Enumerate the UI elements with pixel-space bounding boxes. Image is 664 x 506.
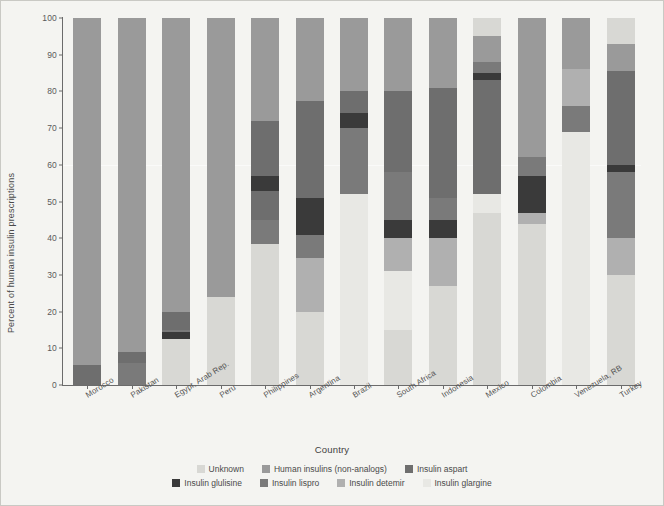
bar-segment (473, 80, 501, 194)
legend-item[interactable]: Insulin detemir (337, 478, 404, 488)
bar-segment (340, 128, 368, 194)
bar-segment (251, 244, 279, 385)
bar-segment (607, 18, 635, 44)
bar-segment (518, 176, 546, 213)
bar-segment (384, 271, 412, 330)
legend-swatch-icon (405, 465, 413, 473)
bar-segment (251, 18, 279, 121)
bar-segment (473, 213, 501, 385)
bar-segment (473, 73, 501, 80)
bar-segment (384, 238, 412, 271)
bar-segment (340, 194, 368, 385)
y-tick-mark (59, 311, 63, 312)
bar-segment (162, 332, 190, 339)
bar-turkey[interactable] (607, 18, 635, 385)
bar-segment (251, 191, 279, 220)
y-tick-mark (59, 348, 63, 349)
bar-philippines[interactable] (251, 18, 279, 385)
legend-label: Insulin glargine (435, 478, 492, 488)
bar-south-africa[interactable] (384, 18, 412, 385)
legend-item[interactable]: Insulin glargine (423, 478, 492, 488)
bar-segment (518, 224, 546, 385)
bar-argentina[interactable] (296, 18, 324, 385)
bar-segment (162, 339, 190, 385)
bar-segment (429, 198, 457, 220)
y-tick-mark (59, 91, 63, 92)
legend-swatch-icon (260, 479, 268, 487)
chart-frame: Percent of human insulin prescriptions 0… (0, 0, 664, 506)
bar-segment (384, 172, 412, 220)
bar-segment (384, 91, 412, 172)
y-tick-mark (59, 201, 63, 202)
legend-swatch-icon (172, 479, 180, 487)
legend-swatch-icon (337, 479, 345, 487)
bar-segment (429, 18, 457, 88)
legend-item[interactable]: Insulin lispro (260, 478, 319, 488)
bar-venezuela-rb[interactable] (562, 18, 590, 385)
bar-brazil[interactable] (340, 18, 368, 385)
bar-segment (607, 71, 635, 165)
bar-segment (429, 220, 457, 238)
bar-segment (562, 106, 590, 132)
chart-legend: UnknownHuman insulins (non-analogs)Insul… (1, 464, 663, 488)
bar-mexico[interactable] (473, 18, 501, 385)
bar-segment (607, 238, 635, 275)
bar-segment (340, 91, 368, 113)
legend-label: Insulin detemir (349, 478, 404, 488)
legend-label: Insulin glulisine (184, 478, 242, 488)
bar-segment (118, 352, 146, 363)
bar-segment (118, 363, 146, 385)
bar-segment (207, 18, 235, 297)
legend-item[interactable]: Insulin aspart (405, 464, 468, 474)
bar-morocco[interactable] (73, 18, 101, 385)
bar-pakistan[interactable] (118, 18, 146, 385)
bar-segment (296, 235, 324, 259)
bar-egypt-arab-rep[interactable] (162, 18, 190, 385)
legend-item[interactable]: Human insulins (non-analogs) (262, 464, 387, 474)
bar-indonesia[interactable] (429, 18, 457, 385)
bar-segment (296, 258, 324, 311)
legend-item[interactable]: Unknown (197, 464, 244, 474)
bar-segment (162, 18, 190, 312)
bar-segment (340, 113, 368, 128)
plot-area: 0102030405060708090100 (63, 18, 641, 385)
bar-segment (118, 18, 146, 352)
bar-segment (473, 62, 501, 73)
bar-segment (562, 69, 590, 106)
bar-segment (73, 18, 101, 365)
bar-segment (73, 365, 101, 385)
bar-colombia[interactable] (518, 18, 546, 385)
bar-segment (518, 157, 546, 175)
bar-segment (562, 18, 590, 69)
legend-swatch-icon (197, 465, 205, 473)
bar-segment (296, 101, 324, 198)
x-axis-label: Country (1, 444, 663, 455)
bar-segment (384, 330, 412, 385)
bar-segment (162, 312, 190, 330)
legend-label: Insulin lispro (272, 478, 319, 488)
y-axis-label: Percent of human insulin prescriptions (6, 173, 16, 333)
y-tick-mark (59, 385, 63, 386)
legend-item[interactable]: Insulin glulisine (172, 478, 242, 488)
bar-peru[interactable] (207, 18, 235, 385)
bar-segment (251, 220, 279, 244)
bar-segment (518, 18, 546, 157)
bar-segment (340, 18, 368, 91)
bar-segment (384, 220, 412, 238)
bar-segment (607, 165, 635, 172)
bar-segment (429, 88, 457, 198)
bar-segment (429, 238, 457, 286)
bar-segment (607, 172, 635, 238)
legend-label: Human insulins (non-analogs) (274, 464, 387, 474)
y-tick-mark (59, 18, 63, 19)
bar-segment (473, 18, 501, 36)
bar-segment (296, 18, 324, 101)
y-tick-mark (59, 54, 63, 55)
bar-segment (518, 213, 546, 224)
bar-segment (251, 121, 279, 176)
bar-segment (384, 18, 412, 91)
legend-label: Insulin aspart (417, 464, 468, 474)
bar-segment (607, 44, 635, 72)
bar-segment (473, 194, 501, 212)
legend-row-primary: UnknownHuman insulins (non-analogs)Insul… (188, 464, 477, 474)
